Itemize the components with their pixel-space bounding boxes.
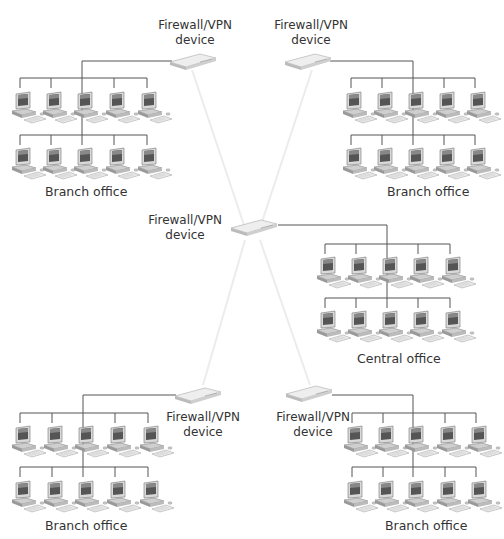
firewall-device-center <box>231 220 277 236</box>
tunnel-bottom-right <box>260 240 310 385</box>
label-line: Firewall/VPN <box>140 213 230 228</box>
label-line: device <box>145 33 245 48</box>
device-label-bottom-right: Firewall/VPN device <box>268 410 358 440</box>
label-line: Firewall/VPN <box>261 18 361 33</box>
label-line: device <box>268 425 358 440</box>
label-line: device <box>261 33 361 48</box>
label-line: Firewall/VPN <box>145 18 245 33</box>
office-center-computers <box>317 257 476 342</box>
office-bottom-left-computers <box>12 426 174 512</box>
firewall-device-top-right <box>285 54 331 70</box>
tunnel-top-right <box>260 70 312 228</box>
office-label-center: Central office <box>357 351 441 366</box>
firewall-device-bottom-right <box>286 386 332 402</box>
office-label-top-right: Branch office <box>387 184 469 199</box>
office-label-top-left: Branch office <box>45 184 127 199</box>
device-label-bottom-left: Firewall/VPN device <box>153 410 253 440</box>
firewall-device-bottom-left <box>175 388 221 404</box>
tunnel-top-left <box>192 70 245 228</box>
office-label-bottom-right: Branch office <box>385 518 467 533</box>
office-bottom-right-computers <box>344 426 502 512</box>
tunnel-bottom-left <box>203 240 245 385</box>
label-line: device <box>140 228 230 243</box>
label-line: device <box>153 425 253 440</box>
office-label-bottom-left: Branch office <box>45 518 127 533</box>
device-label-top-right: Firewall/VPN device <box>261 18 361 48</box>
firewall-device-top-left <box>170 54 216 70</box>
label-line: Firewall/VPN <box>153 410 253 425</box>
network-diagram <box>0 0 504 539</box>
device-label-top-left: Firewall/VPN device <box>145 18 245 48</box>
label-line: Firewall/VPN <box>268 410 358 425</box>
device-label-center: Firewall/VPN device <box>140 213 230 243</box>
